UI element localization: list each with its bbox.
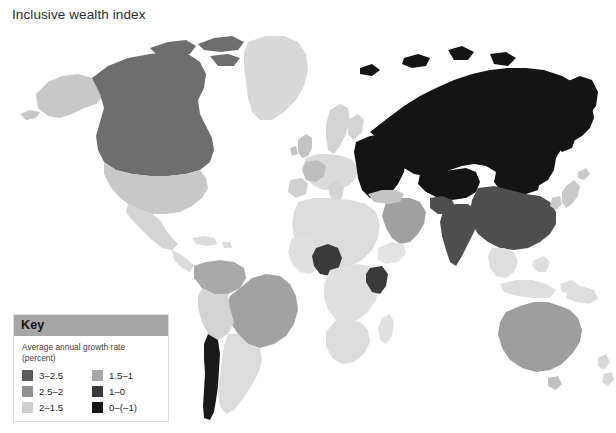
legend-item-label: 2.5–2 [39, 386, 63, 397]
legend-item-label: 1–0 [109, 386, 125, 397]
legend-item-2-1.5: 2–1.5 [22, 402, 92, 413]
legend-item-3-2.5: 3–2.5 [22, 370, 92, 381]
legend-swatch-icon [92, 370, 103, 381]
legend-items: 3–2.5 1.5–1 2.5–2 1–0 2–1.5 0–(–1) [14, 366, 168, 421]
legend-item-2.5-2: 2.5–2 [22, 386, 92, 397]
region-canada [92, 52, 214, 176]
legend-item-label: 3–2.5 [39, 370, 63, 381]
legend-swatch-icon [92, 386, 103, 397]
legend-item-1-0: 1–0 [92, 386, 162, 397]
legend-swatch-icon [22, 370, 33, 381]
legend-item-1.5-1: 1.5–1 [92, 370, 162, 381]
legend-header: Key [14, 315, 168, 336]
legend-swatch-icon [92, 402, 103, 413]
legend-item-label: 0–(–1) [109, 402, 137, 413]
map-legend: Key Average annual growth rate (percent)… [13, 314, 169, 422]
legend-item-label: 2–1.5 [39, 402, 63, 413]
legend-heading: Key [21, 319, 44, 332]
legend-subtitle: Average annual growth rate (percent) [14, 336, 168, 366]
legend-item-label: 1.5–1 [109, 370, 133, 381]
legend-swatch-icon [22, 402, 33, 413]
chart-page: Inclusive wealth index [0, 0, 616, 433]
legend-swatch-icon [22, 386, 33, 397]
legend-item-0-minus1: 0–(–1) [92, 402, 162, 413]
